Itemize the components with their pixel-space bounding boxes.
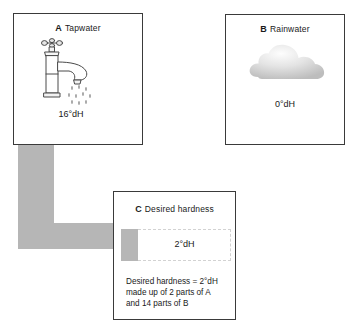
tapwater-value-on-arrow: 16°dH	[18, 109, 124, 119]
panel-b-title: BRainwater	[226, 24, 344, 34]
panel-a-label: Tapwater	[65, 23, 101, 33]
panel-a-title: ATapwater	[14, 23, 142, 33]
panel-b-label: Rainwater	[270, 24, 310, 34]
panel-b-letter: B	[260, 24, 267, 34]
diagram-canvas: 16°dH ATapwater	[0, 0, 360, 335]
panel-c-label: Desired hardness	[145, 204, 214, 214]
mixture-part-a-block	[121, 229, 138, 261]
desired-hardness-value: 2°dH	[138, 239, 231, 249]
panel-c-desired-hardness: CDesired hardness 2°dH Desired hardness …	[113, 191, 236, 320]
panel-c-letter: C	[135, 204, 142, 214]
panel-c-title: CDesired hardness	[114, 204, 235, 214]
panel-a-tapwater: ATapwater	[13, 13, 143, 145]
tap-icon	[32, 38, 104, 108]
mixture-bar: 2°dH	[115, 229, 236, 261]
desired-hardness-caption: Desired hardness = 2°dH made up of 2 par…	[126, 276, 232, 310]
panel-b-rainwater: BRainwater 0°dH	[225, 14, 345, 145]
rainwater-value: 0°dH	[226, 99, 344, 109]
panel-a-letter: A	[55, 23, 62, 33]
cloud-icon	[248, 41, 326, 83]
